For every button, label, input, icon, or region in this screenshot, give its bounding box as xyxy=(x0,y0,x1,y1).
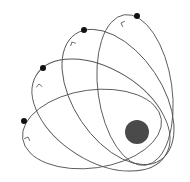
planets-layer xyxy=(21,13,140,124)
orbits-layer xyxy=(12,9,190,182)
planet-dot-1 xyxy=(134,13,140,19)
direction-arrow-icon xyxy=(69,41,76,46)
direction-arrow-icon xyxy=(24,136,31,141)
planet-dot-4 xyxy=(21,118,27,124)
orbit-precession-diagram xyxy=(0,0,190,182)
direction-arrow-icon xyxy=(36,84,42,88)
planet-dot-3 xyxy=(40,65,46,71)
central-body xyxy=(125,120,149,144)
orbit-path-2 xyxy=(39,9,190,182)
direction-arrow-icon xyxy=(120,20,125,27)
orbit-path-1 xyxy=(88,10,182,171)
arrows-layer xyxy=(24,20,125,141)
planet-dot-2 xyxy=(81,27,87,33)
